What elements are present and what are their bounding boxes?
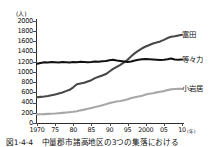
series-line-富田 (37, 35, 182, 97)
figure-caption: 図1-4-4 中量郡市諸高地区の3つの集落における (6, 138, 218, 147)
figure-container: (人) 020040060080010001200140016001800200… (0, 0, 218, 147)
chart-legend: 富田等々力小岩居 (182, 0, 218, 147)
caption-text: 中量郡市諸高地区の3つの集落における (42, 138, 179, 147)
legend-label-小岩居: 小岩居 (182, 85, 202, 93)
series-line-等々力 (37, 58, 182, 63)
legend-label-等々力: 等々力 (182, 56, 202, 64)
caption-figure-number: 図1-4-4 (6, 138, 33, 147)
legend-label-富田: 富田 (182, 31, 196, 39)
